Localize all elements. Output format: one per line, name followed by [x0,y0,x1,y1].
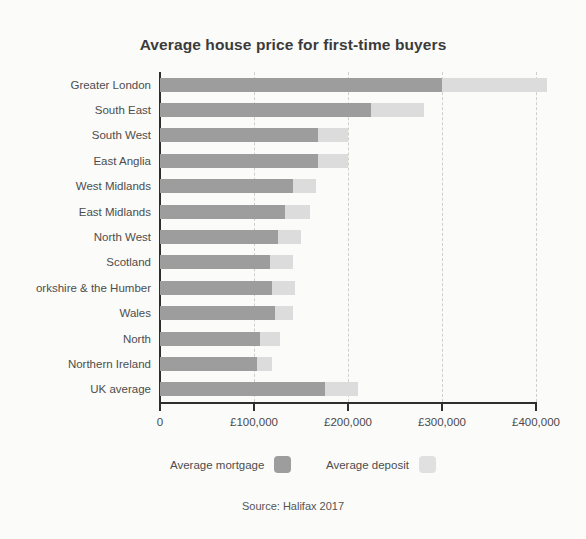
bar-row: East Midlands [160,205,536,219]
bar-segment-mortgage [160,128,318,142]
category-label: Northern Ireland [68,355,151,373]
x-axis-tick [441,402,443,411]
bar-segment-deposit [272,281,296,295]
bar-row: East Anglia [160,154,536,168]
bar-row: North West [160,230,536,244]
category-label: East Midlands [79,203,151,221]
bar-row: West Midlands [160,179,536,193]
bar-segment-mortgage [160,357,257,371]
bar-segment-mortgage [160,230,278,244]
chart-legend: Average mortgageAverage deposit [0,452,586,482]
bar-segment-mortgage [160,306,275,320]
category-label: North [123,330,151,348]
category-label: North West [94,228,151,246]
bar-segment-mortgage [160,179,293,193]
x-axis-tick-label: £300,000 [418,416,466,428]
bar-segment-mortgage [160,281,272,295]
bar-segment-deposit [285,205,310,219]
bar-segment-deposit [275,306,293,320]
bar-segment-mortgage [160,78,442,92]
x-axis-tick-label: £200,000 [324,416,372,428]
bar-segment-deposit [270,255,293,269]
category-label: South West [92,126,151,144]
x-axis-tick [159,402,161,411]
category-label: UK average [90,380,151,398]
bar-row: South West [160,128,536,142]
category-label: Wales [119,304,151,322]
category-label: Greater London [70,76,151,94]
category-label: South East [95,101,151,119]
bar-segment-mortgage [160,382,325,396]
bar-row: North [160,332,536,346]
bar-segment-deposit [318,154,348,168]
legend-label: Average mortgage [170,459,264,471]
bar-row: UK average [160,382,536,396]
x-axis-tick [347,402,349,411]
legend-swatch [274,456,291,473]
category-label: West Midlands [76,177,151,195]
bar-row: Scotland [160,255,536,269]
bar-segment-deposit [318,128,348,142]
gridline [536,72,537,402]
bar-segment-deposit [442,78,547,92]
legend-item[interactable]: Average mortgage [170,456,291,473]
bar-segment-deposit [293,179,317,193]
bar-row: Wales [160,306,536,320]
category-label: Scotland [106,253,151,271]
bar-segment-mortgage [160,205,285,219]
bar-segment-deposit [260,332,281,346]
chart-title: Average house price for first-time buyer… [0,36,586,54]
bar-segment-mortgage [160,103,371,117]
category-label: East Anglia [93,152,151,170]
category-label: orkshire & the Humber [36,279,151,297]
bar-segment-mortgage [160,332,260,346]
x-axis-tick-label: £100,000 [230,416,278,428]
legend-swatch [419,456,436,473]
plot-area: 0£100,000£200,000£300,000£400,000Greater… [160,72,536,402]
bar-segment-deposit [325,382,359,396]
x-axis-tick-label: 0 [157,416,163,428]
bar-row: orkshire & the Humber [160,281,536,295]
x-axis-tick-label: £400,000 [512,416,560,428]
source-note: Source: Halifax 2017 [0,500,586,512]
bar-row: Northern Ireland [160,357,536,371]
bar-segment-deposit [257,357,272,371]
x-axis-tick [535,402,537,411]
legend-label: Average deposit [326,459,409,471]
bar-row: Greater London [160,78,536,92]
bar-segment-mortgage [160,154,318,168]
bar-segment-deposit [371,103,425,117]
bar-segment-deposit [278,230,302,244]
bar-row: South East [160,103,536,117]
legend-item[interactable]: Average deposit [326,456,436,473]
x-axis-tick [253,402,255,411]
chart-container: Average house price for first-time buyer… [0,0,586,539]
bar-segment-mortgage [160,255,270,269]
